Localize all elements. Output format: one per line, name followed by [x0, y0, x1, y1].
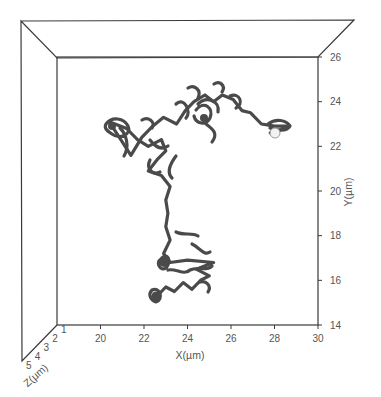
y-tick-label: 22: [330, 141, 342, 152]
x-axis-label: X(µm): [176, 349, 205, 361]
x-tick-label: 26: [225, 333, 237, 344]
y-tick-label: 24: [330, 96, 342, 107]
y-tick-label: 20: [330, 186, 342, 197]
z-tick-label: 5: [26, 360, 32, 371]
trajectory-series: [105, 83, 290, 302]
z-tick-label: 3: [44, 342, 50, 353]
end-marker-sphere: [270, 128, 280, 138]
trajectory-cluster: [108, 122, 116, 130]
y-tick-label: 26: [330, 52, 342, 63]
y-axis-label: Y(µm): [342, 178, 354, 207]
plot-frame: [21, 20, 354, 361]
z-axis: 12345: [26, 324, 67, 371]
trajectory-detail: [105, 83, 290, 302]
z-tick-label: 4: [35, 351, 41, 362]
x-tick-label: 30: [312, 333, 324, 344]
y-tick-label: 14: [330, 320, 342, 331]
y-axis: 14161820222426: [318, 52, 342, 331]
x-tick-label: 22: [138, 333, 150, 344]
z-tick-label: 2: [52, 333, 58, 344]
trajectory-cluster: [200, 114, 208, 122]
start-marker: [152, 292, 161, 301]
x-tick-label: 24: [182, 333, 194, 344]
x-axis: 202224262830: [95, 325, 324, 344]
y-tick-label: 16: [330, 275, 342, 286]
x-tick-label: 20: [95, 333, 107, 344]
x-tick-label: 28: [269, 333, 281, 344]
z-tick-label: 1: [61, 324, 67, 335]
trajectory-line: [109, 95, 287, 296]
trajectory-3d-plot: 202224262830 14161820222426 12345 X(µm) …: [0, 0, 381, 397]
trajectory-cluster: [159, 257, 169, 267]
y-tick-label: 18: [330, 230, 342, 241]
outer-frame: [21, 20, 354, 361]
